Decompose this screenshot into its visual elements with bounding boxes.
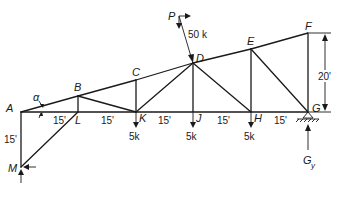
node-label-l: L [75, 114, 81, 126]
node-label-j: J [195, 112, 202, 124]
svg-text:y: y [310, 161, 316, 170]
dimension-fg-height: 20' [309, 33, 331, 112]
svg-text:15': 15' [158, 115, 171, 126]
diagonal-members [21, 49, 308, 167]
svg-text:15': 15' [101, 115, 114, 126]
node-label-d: D [196, 52, 204, 64]
svg-text:15': 15' [217, 115, 230, 126]
load-p-label: P [168, 10, 176, 22]
node-label-e: E [247, 35, 255, 47]
svg-text:20': 20' [318, 71, 331, 82]
node-label-k: K [139, 112, 147, 124]
dimension-am: 15' [4, 134, 17, 145]
node-label-f: F [305, 20, 313, 32]
truss-diagram: A B C D E F G H J K L M α 15' 15' 15' 15… [0, 0, 342, 197]
node-label-c: C [132, 66, 140, 78]
angle-alpha-marker: α [33, 91, 44, 118]
svg-text:15': 15' [53, 115, 66, 126]
node-label-h: H [254, 112, 262, 124]
load-p-value: 50 k [188, 29, 208, 40]
svg-text:5k: 5k [129, 131, 141, 142]
reaction-gy: G y [303, 124, 316, 170]
node-label-a: A [5, 102, 13, 114]
top-chord [21, 33, 308, 112]
point-loads: 5k 5k 5k [129, 113, 256, 142]
svg-text:5k: 5k [186, 131, 198, 142]
node-label-b: B [74, 81, 81, 93]
node-label-m: M [8, 162, 18, 174]
svg-text:15': 15' [274, 115, 287, 126]
svg-text:5k: 5k [244, 131, 256, 142]
